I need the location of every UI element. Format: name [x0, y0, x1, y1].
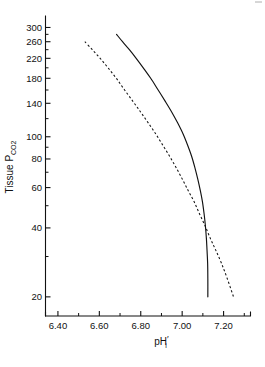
y-tick-label: 300: [26, 22, 42, 33]
y-tick-label: 180: [26, 73, 42, 84]
tick-labels-group: 204060801001401802202603006.406.606.807.…: [26, 22, 233, 331]
figure-container: 204060801001401802202603006.406.606.807.…: [0, 0, 265, 367]
y-tick-label: 20: [31, 291, 42, 302]
y-tick-label: 140: [26, 98, 42, 109]
x-tick-label: 7.20: [214, 320, 233, 331]
y-tick-label: 220: [26, 53, 42, 64]
data-series-solid-curve: [117, 34, 208, 297]
x-axis-title: pH′i: [154, 334, 169, 350]
chart-plot: 204060801001401802202603006.406.606.807.…: [0, 0, 265, 367]
axis-titles-group: pH′iTissue PCO2: [4, 140, 169, 349]
x-tick-label: 6.40: [49, 320, 68, 331]
axes-group: [46, 16, 251, 316]
y-axis-title: Tissue PCO2: [4, 140, 17, 193]
x-tick-label: 6.60: [90, 320, 109, 331]
x-tick-label: 6.80: [132, 320, 151, 331]
data-curves-group: [85, 34, 234, 297]
y-tick-label: 260: [26, 36, 42, 47]
y-tick-label: 100: [26, 131, 42, 142]
ticks-group: [46, 27, 251, 316]
x-tick-label: 7.00: [173, 320, 192, 331]
y-tick-label: 40: [31, 222, 42, 233]
y-tick-label: 80: [31, 153, 42, 164]
data-series-dashed-curve: [85, 42, 234, 297]
y-tick-label: 60: [31, 182, 42, 193]
